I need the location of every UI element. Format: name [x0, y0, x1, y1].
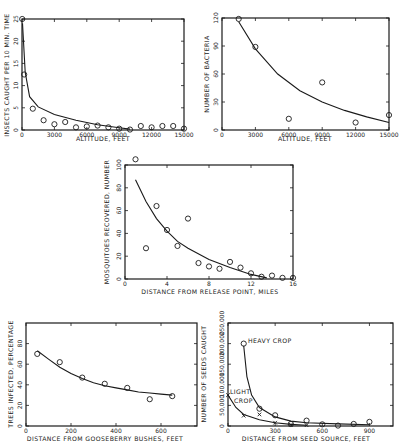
data-point: [170, 394, 175, 399]
data-point: [238, 265, 243, 270]
chart-bacteria-altitude: 030006000900012000150000306090120: [212, 12, 399, 138]
y-tick-label: 0: [212, 128, 219, 132]
y-tick-label: 25: [12, 15, 19, 23]
y-tick-label: 90: [212, 42, 219, 50]
x-tick-label: 3000: [47, 131, 62, 138]
chart-trees-infected-distance: 0200400600020406080: [16, 323, 197, 434]
y-tick-label: 0: [16, 424, 23, 428]
chart-insects-altitude: 030006000900012000150000510152025: [12, 15, 194, 138]
y-tick-label: 15: [12, 59, 19, 67]
y-tick-label: 20: [115, 252, 122, 260]
plot-frame: [26, 323, 197, 426]
data-point: [171, 123, 176, 128]
y-tick-label: 10: [12, 82, 19, 90]
x-tick-label: 0: [20, 131, 24, 138]
x-tick-label: 600: [317, 427, 329, 434]
plot-frame: [22, 19, 184, 130]
data-point: [185, 216, 190, 221]
x-tick-label: 0: [226, 427, 230, 434]
y-tick-label: 0: [12, 128, 19, 132]
x-tick-label: 15000: [379, 131, 398, 138]
y-tick-label: 5: [12, 106, 19, 110]
data-point: [320, 80, 325, 85]
chart4-ylabel: TREES INFECTED, PERCENTAGE: [7, 320, 14, 428]
x-tick-label: 400: [110, 427, 122, 434]
y-tick-label: 40: [16, 381, 23, 389]
x-tick-label: 600: [155, 427, 167, 434]
data-point: [73, 125, 78, 130]
data-point: [143, 246, 148, 251]
y-tick-label: 100: [115, 159, 122, 171]
y-tick-label: 250,000: [218, 310, 225, 335]
y-tick-label: 120: [212, 12, 219, 24]
data-point: [95, 123, 100, 128]
x-tick-label: 12: [247, 280, 255, 287]
y-tick-label: 60: [212, 70, 219, 78]
fit-curve: [244, 346, 370, 425]
data-point: [280, 275, 285, 280]
data-point: [154, 203, 159, 208]
data-point-x: [258, 413, 262, 417]
chart1-xlabel: ALTITUDE, FEET: [76, 135, 130, 142]
y-tick-label: 0: [115, 277, 122, 281]
plot-frame: [125, 165, 293, 279]
data-point: [286, 116, 291, 121]
data-point: [147, 397, 152, 402]
x-tick-label: 15000: [174, 131, 193, 138]
data-point: [160, 123, 165, 128]
data-point: [175, 243, 180, 248]
data-point: [353, 120, 358, 125]
fit-curve: [37, 351, 172, 395]
y-tick-label: 60: [16, 360, 23, 368]
chart-seeds-caught-distance: 0300600900050,000100,000150,000200,00025…: [218, 310, 393, 434]
data-point: [41, 118, 46, 123]
fit-curve: [239, 22, 389, 123]
data-point: [63, 119, 68, 124]
chart3-ylabel: MOSQUITOES RECOVERED, NUMBER: [103, 160, 110, 285]
data-point: [133, 157, 138, 162]
fit-curve: [23, 23, 131, 129]
y-tick-label: 60: [115, 207, 122, 215]
x-tick-label: 0: [24, 427, 28, 434]
chart3-xlabel: DISTANCE FROM RELEASE POINT, MILES: [141, 288, 278, 295]
y-tick-label: 40: [115, 229, 122, 237]
chart5-ylabel: NUMBER OF SEEDS CAUGHT: [200, 326, 207, 423]
data-point: [206, 264, 211, 269]
light-crop-annotation-line2: CROP: [234, 397, 253, 404]
data-point: [236, 16, 241, 21]
data-point: [106, 125, 111, 130]
chart5-xlabel: DISTANCE FROM SEED SOURCE, FEET: [242, 435, 370, 442]
x-tick-label: 16: [289, 280, 297, 287]
y-tick-label: 20: [12, 37, 19, 45]
data-point: [52, 122, 57, 127]
y-tick-label: 30: [212, 98, 219, 106]
data-point: [57, 360, 62, 365]
data-point: [35, 351, 40, 356]
data-point: [30, 106, 35, 111]
chart4-xlabel: DISTANCE FROM GOOSEBERRY BUSHES, FEET: [27, 435, 183, 442]
x-tick-label: 12000: [142, 131, 161, 138]
x-tick-label: 900: [364, 427, 376, 434]
chart1-ylabel: INSECTS CAUGHT PER 10 MIN. TIME: [3, 13, 10, 136]
x-tick-label: 4: [165, 280, 169, 287]
data-point: [138, 123, 143, 128]
data-point: [269, 273, 274, 278]
y-tick-label: 20: [16, 401, 23, 409]
y-tick-label: 0: [218, 424, 225, 428]
x-tick-label: 8: [207, 280, 211, 287]
x-tick-label: 0: [123, 280, 127, 287]
x-tick-label: 300: [269, 427, 281, 434]
chart2-xlabel: ALTITUDE, FEET: [278, 135, 332, 142]
x-tick-label: 200: [65, 427, 77, 434]
heavy-crop-annotation: HEAVY CROP: [248, 337, 292, 344]
x-tick-label: 3000: [248, 131, 263, 138]
light-crop-annotation-line1: LIGHT: [230, 388, 251, 395]
y-tick-label: 80: [16, 340, 23, 348]
x-tick-label: 0: [220, 131, 224, 138]
chart-mosquitoes-distance: 0481216020406080100: [115, 157, 297, 287]
figure-canvas: 030006000900012000150000510152025 030006…: [0, 0, 406, 448]
y-tick-label: 80: [115, 184, 122, 192]
data-point: [227, 259, 232, 264]
chart2-ylabel: NUMBER OF BACTERIA: [203, 35, 210, 113]
x-tick-label: 12000: [346, 131, 365, 138]
